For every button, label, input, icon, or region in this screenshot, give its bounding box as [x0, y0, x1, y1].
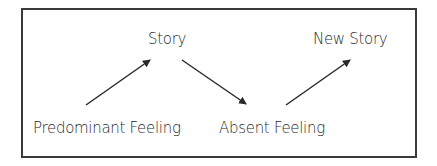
arrow-predominant-to-story [86, 60, 150, 105]
node-predominant-feeling: Predominant Feeling [33, 119, 181, 137]
node-new-story: New Story [313, 30, 387, 48]
arrow-absent-to-newstory [286, 60, 350, 105]
arrow-story-to-absent [182, 60, 246, 104]
node-absent-feeling: Absent Feeling [219, 119, 325, 137]
arrows-layer [0, 0, 437, 166]
node-story: Story [148, 30, 186, 48]
